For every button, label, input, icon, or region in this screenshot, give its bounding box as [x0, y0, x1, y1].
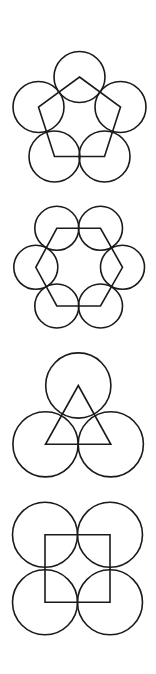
square-figure — [13, 502, 143, 635]
square-outline — [45, 535, 110, 603]
hexagon-outline — [36, 228, 123, 306]
diagram-canvas — [0, 0, 156, 674]
triangle-outline — [46, 386, 111, 445]
hexagon-figure — [14, 206, 145, 328]
pentagon-outline — [39, 77, 121, 157]
pentagon-figure — [13, 52, 146, 183]
circles-on-polygons-diagram — [0, 0, 156, 674]
triangle-figure — [13, 353, 144, 477]
